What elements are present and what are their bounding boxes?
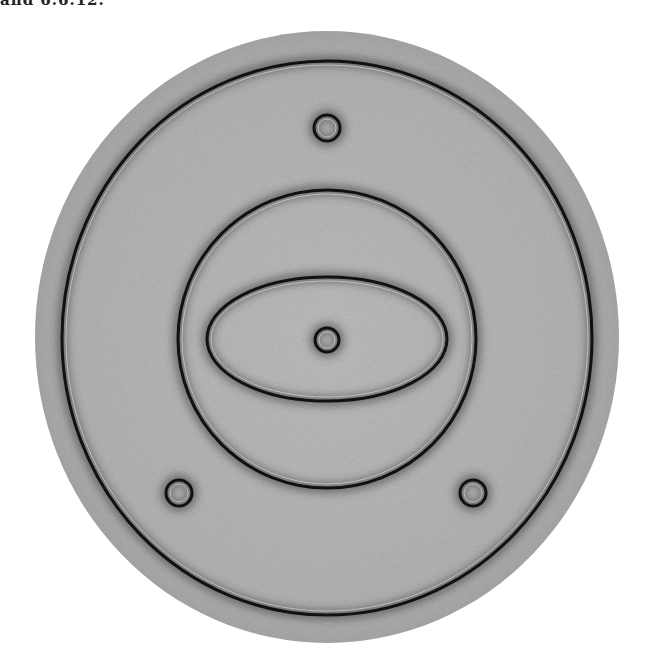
figure-canvas bbox=[0, 0, 647, 661]
disk bbox=[35, 31, 619, 643]
